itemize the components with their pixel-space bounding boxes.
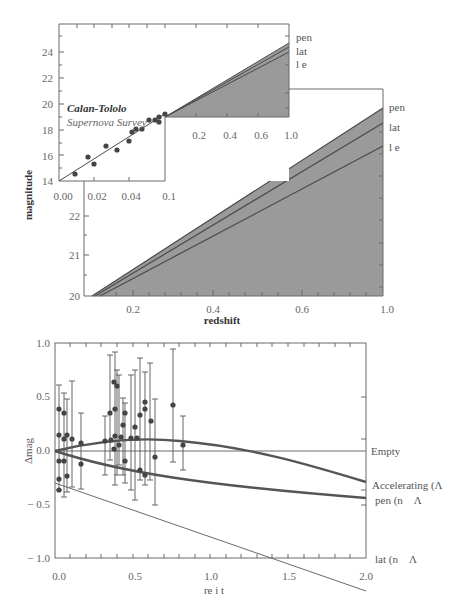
x-axis-title-redshift: redshift [204,314,241,326]
inset-y-tick-14: 14 [42,175,54,187]
inset-label-lat: lat [296,45,307,57]
label-accelerating: Accelerating (Λ [372,479,443,492]
residual-x-tick-0.5: 0.5 [128,570,142,582]
residual-top-ticks [70,343,350,347]
residual-x-tick-2.0: 2.0 [359,570,373,582]
residual-x-tick-1.5: 1.5 [282,570,296,582]
main-x-tick-1.0: 1.0 [380,303,394,315]
annotation-calan-tololo: Calan-Tololo [67,102,127,114]
inset-x-tick-0.1: 0.1 [162,190,176,202]
curve-open [55,451,366,498]
residual-x-tick-0.0: 0.0 [52,570,66,582]
inset-ext-x-tick-0.4: 0.4 [223,129,237,141]
inset-x-tick-0.00: 0.00 [53,190,73,202]
residual-y-tick-0.5: 0.5 [36,390,50,402]
label-open: pen (n Λ [375,494,422,507]
residual-x-axis-title: re i t [204,584,224,596]
inset-label-pen: pen [296,31,312,43]
inset-label-le: l e [296,58,307,70]
inset-x-tick-0.04: 0.04 [121,190,141,202]
label-empty: Empty [371,445,401,457]
main-x-tick-0.6: 0.6 [295,303,309,315]
main-x-tick-0.2: 0.2 [126,303,140,315]
inset-y-tick-16: 16 [42,150,54,162]
residual-error-bars [56,349,186,505]
main-y-ticks [84,216,89,275]
inset-ext-x-tick-0.6: 0.6 [254,129,268,141]
inset-y-tick-22: 22 [42,72,53,84]
label-flat: lat (n Λ [375,553,417,566]
y-axis-title-magnitude: magnitude [22,170,34,220]
main-y-tick-22: 22 [69,210,80,222]
residual-y-tick-neg1.0: − 1.0 [27,552,50,564]
inset-ext-x-tick-0.2: 0.2 [192,129,206,141]
inset-x-tick-0.02: 0.02 [87,190,106,202]
annotation-supernova-survey: Supernova Survey [67,116,147,128]
residual-y-tick-1.0: 1.0 [36,337,50,349]
residual-y-tick-0.0: 0.0 [36,444,50,456]
residual-y-axis-title: Δmag [22,437,34,464]
residual-bottom-ticks [70,554,350,558]
main-y-tick-21: 21 [69,249,80,261]
residual-plot: 1.0 0.5 0.0 − 0.5 − 1.0 0.0 0.5 1.0 1.5 … [22,337,443,596]
curve-accelerating [55,439,366,482]
main-label-pen: pen [389,101,405,113]
inset-y-tick-24: 24 [42,46,54,58]
main-label-lat: lat [389,121,400,133]
hubble-diagram: 22 21 20 0.2 0.4 0.6 1.0 redshift magnit… [22,24,405,326]
residual-x-tick-1.0: 1.0 [204,570,218,582]
inset-y-tick-18: 18 [42,124,54,136]
inset-y-tick-20: 20 [42,98,54,110]
residual-y-tick-neg0.5: − 0.5 [27,498,50,510]
main-label-le: l e [389,141,400,153]
figure: 22 21 20 0.2 0.4 0.6 1.0 redshift magnit… [0,0,457,615]
main-y-tick-20: 20 [69,290,81,302]
inset-ext-x-tick-1.0: 1.0 [284,129,298,141]
